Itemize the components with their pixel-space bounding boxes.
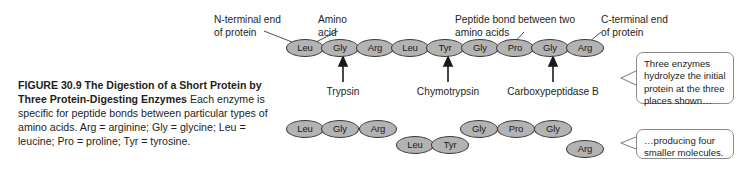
cleavage-arrow-chymotrypsin [444,57,452,82]
callout-top: Three enzymes hydrolyze the initial prot… [636,52,734,104]
residue-gly: Gly [531,39,569,57]
enzyme-label-carboxypeptidase-b: Carboxypeptidase B [493,86,613,99]
figure-caption: FIGURE 30.9 The Digestion of a Short Pro… [18,78,280,148]
residue-leu: Leu [396,136,434,154]
residue-gly: Gly [534,120,572,138]
enzyme-label-chymotrypsin: Chymotrypsin [403,86,493,99]
enzyme-label-trypsin: Trypsin [313,86,373,99]
residue-leu: Leu [286,39,324,57]
residue-gly: Gly [461,39,499,57]
annotation-c-terminal: C-terminal end of protein [601,14,668,39]
annotation-amino-acid: Amino acid [318,14,347,39]
residue-pro: Pro [497,120,535,138]
callout-tail-top [621,71,636,85]
cleavage-arrow-carboxypeptidase-b [549,57,557,82]
figure-30-9: FIGURE 30.9 The Digestion of a Short Pro… [0,0,743,173]
residue-arg: Arg [566,140,604,158]
residue-gly: Gly [321,39,359,57]
callout-tail-bottom [621,137,636,149]
residue-arg: Arg [359,120,397,138]
residue-tyr: Tyr [426,39,464,57]
residue-gly: Gly [321,120,359,138]
residue-gly: Gly [460,120,498,138]
cleavage-arrow-trypsin [339,57,347,82]
residue-tyr: Tyr [431,136,469,154]
residue-arg: Arg [356,39,394,57]
residue-pro: Pro [496,39,534,57]
residue-leu: Leu [286,120,324,138]
residue-arg: Arg [566,39,604,57]
annotation-n-terminal: N-terminal end of protein [214,14,281,39]
annotation-peptide-bond: Peptide bond between two amino acids [455,14,575,39]
callout-bottom: …producing four smaller molecules. [636,129,734,159]
residue-leu: Leu [391,39,429,57]
